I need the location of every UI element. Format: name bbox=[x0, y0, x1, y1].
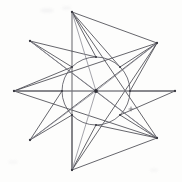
star-vertex-node bbox=[156, 42, 158, 44]
inner-vertex-node bbox=[119, 66, 121, 68]
star-edge bbox=[72, 12, 120, 67]
spoke-line bbox=[72, 91, 96, 170]
star-edge bbox=[130, 43, 157, 91]
inner-vertex-node bbox=[119, 114, 121, 116]
inner-vertex-node bbox=[129, 90, 131, 92]
chord-line bbox=[72, 138, 157, 170]
star-edge bbox=[30, 41, 72, 67]
star-edge bbox=[120, 115, 157, 138]
spoke-line bbox=[72, 12, 96, 91]
chord-line bbox=[72, 12, 157, 43]
star-vertex-node bbox=[174, 90, 176, 92]
star-edge bbox=[30, 115, 72, 140]
inner-vertex-node bbox=[95, 56, 97, 58]
star-vertex-node bbox=[156, 137, 158, 139]
figure-canvas bbox=[0, 0, 182, 182]
spoke-line bbox=[96, 91, 157, 138]
inner-vertex-node bbox=[71, 114, 73, 116]
star-vertex-node bbox=[29, 139, 31, 141]
inner-vertex-node bbox=[61, 90, 63, 92]
star-vertex-node bbox=[13, 90, 15, 92]
star-polygon-figure bbox=[0, 0, 182, 182]
star-vertex-node bbox=[71, 169, 73, 171]
star-edge bbox=[30, 91, 62, 140]
star-edge bbox=[120, 43, 157, 67]
star-vertex-node bbox=[71, 11, 73, 13]
star-edge bbox=[14, 67, 72, 91]
center-node bbox=[94, 89, 98, 93]
inner-vertex-node bbox=[95, 124, 97, 126]
inner-vertex-node bbox=[71, 66, 73, 68]
star-vertex-node bbox=[29, 40, 31, 42]
